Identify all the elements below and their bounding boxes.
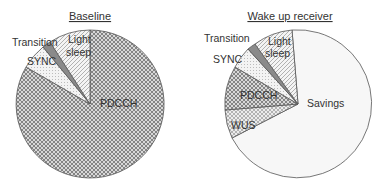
- label-pdcch: PDCCH: [240, 89, 277, 101]
- label-sleep: sleep: [66, 46, 91, 58]
- label-pdcch: PDCCH: [100, 97, 137, 109]
- wake-up-receiver-pie: Wake up receiver Transition Light sleep …: [204, 10, 372, 178]
- label-transition: Transition: [12, 36, 58, 48]
- label-savings: Savings: [307, 97, 344, 109]
- label-sleep: sleep: [265, 47, 290, 59]
- label-wus: WUS: [231, 119, 256, 131]
- pie-charts: Baseline Transition Light sleep SYNC PDC…: [0, 0, 381, 189]
- baseline-pie: Baseline Transition Light sleep SYNC PDC…: [12, 10, 164, 178]
- chart-title: Baseline: [69, 10, 111, 22]
- chart-title: Wake up receiver: [247, 10, 333, 22]
- label-transition: Transition: [204, 32, 250, 44]
- label-light: Light: [268, 35, 291, 47]
- label-sync: SYNC: [213, 53, 243, 65]
- label-light: Light: [68, 33, 91, 45]
- label-sync: SYNC: [27, 55, 57, 67]
